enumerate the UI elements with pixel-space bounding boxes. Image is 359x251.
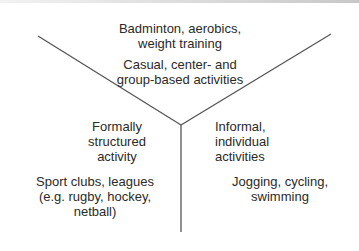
- text-line: structured: [77, 134, 157, 149]
- text-line: activity: [77, 149, 157, 164]
- top-category: Casual, center- and group-based activiti…: [100, 57, 260, 87]
- text-line: Sport clubs, leagues: [30, 174, 160, 189]
- text-line: individual: [215, 134, 275, 149]
- text-line: swimming: [225, 189, 335, 204]
- left-category: Formally structured activity: [77, 119, 157, 164]
- text-line: Jogging, cycling,: [225, 174, 335, 189]
- text-line: Casual, center- and: [100, 57, 260, 72]
- right-examples: Jogging, cycling, swimming: [225, 174, 335, 204]
- text-line: Badminton, aerobics,: [100, 21, 260, 36]
- text-line: weight training: [100, 36, 260, 51]
- text-line: netball): [30, 204, 160, 219]
- text-line: Formally: [77, 119, 157, 134]
- left-examples: Sport clubs, leagues (e.g. rugby, hockey…: [30, 174, 160, 219]
- top-examples: Badminton, aerobics, weight training: [100, 21, 260, 51]
- text-line: activities: [215, 149, 275, 164]
- text-line: Informal,: [215, 119, 275, 134]
- text-line: (e.g. rugby, hockey,: [30, 189, 160, 204]
- right-category: Informal, individual activities: [215, 119, 275, 164]
- text-line: group-based activities: [100, 72, 260, 87]
